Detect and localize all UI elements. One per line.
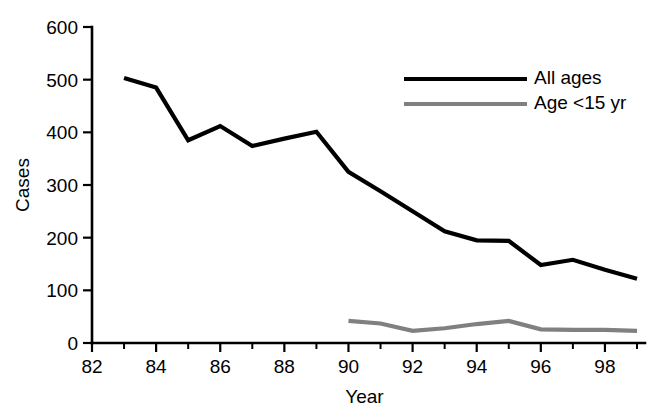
legend-label-2: Age <15 yr <box>534 92 627 113</box>
x-axis-tick-label: 84 <box>146 356 168 377</box>
y-axis-tick-label: 500 <box>46 70 78 91</box>
x-axis-tick-label: 92 <box>402 356 423 377</box>
x-axis-tick-label: 86 <box>210 356 231 377</box>
y-axis-title: Cases <box>12 158 33 212</box>
y-axis-tick-label: 200 <box>46 228 78 249</box>
y-axis-tick-label: 0 <box>67 333 78 354</box>
line-chart: 0100200300400500600828486889092949698Yea… <box>0 0 664 411</box>
legend-label-1: All ages <box>534 67 602 88</box>
y-axis-tick-label: 600 <box>46 17 78 38</box>
y-axis-tick-label: 100 <box>46 280 78 301</box>
x-axis-tick-label: 98 <box>594 356 615 377</box>
x-axis-tick-label: 88 <box>274 356 295 377</box>
x-axis-title: Year <box>345 386 384 407</box>
y-axis-tick-label: 400 <box>46 122 78 143</box>
series-line-age-15-yr <box>348 321 637 331</box>
chart-container: 0100200300400500600828486889092949698Yea… <box>0 0 664 411</box>
x-axis-tick-label: 90 <box>338 356 359 377</box>
x-axis-tick-label: 94 <box>466 356 488 377</box>
x-axis-tick-label: 82 <box>81 356 102 377</box>
y-axis-tick-label: 300 <box>46 175 78 196</box>
x-axis-tick-label: 96 <box>530 356 551 377</box>
